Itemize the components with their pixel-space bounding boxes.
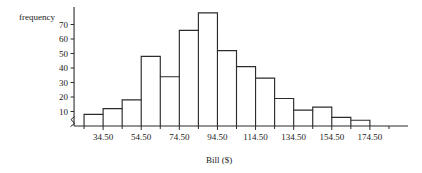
y-tick-label: 20 [59, 92, 69, 102]
y-tick-label: 40 [59, 63, 69, 73]
y-tick-label: 60 [59, 34, 69, 44]
chart-canvas: 10203040506070 34.5054.5074.5094.50114.5… [0, 0, 422, 173]
x-tick-label: 174.50 [358, 132, 383, 142]
histogram-bars [84, 13, 370, 126]
x-tick-label: 74.50 [169, 132, 190, 142]
y-tick-label: 70 [59, 20, 69, 30]
x-tick-label: 54.50 [131, 132, 152, 142]
x-tick-label: 114.50 [243, 132, 268, 142]
x-tick-label: 34.50 [93, 132, 114, 142]
y-axis-title: frequency [19, 12, 55, 22]
x-axis: 34.5054.5074.5094.50114.50134.50154.5017… [74, 126, 408, 142]
y-tick-label: 30 [59, 78, 69, 88]
histogram-outline [84, 13, 370, 126]
x-tick-label: 94.50 [207, 132, 228, 142]
histogram-chart: 10203040506070 34.5054.5074.5094.50114.5… [0, 0, 422, 173]
y-tick-label: 50 [59, 49, 69, 59]
x-axis-title: Bill ($) [206, 155, 232, 165]
x-tick-label: 154.50 [319, 132, 344, 142]
x-tick-label: 134.50 [281, 132, 306, 142]
y-tick-label: 10 [59, 107, 69, 117]
y-axis: 10203040506070 [59, 7, 75, 127]
